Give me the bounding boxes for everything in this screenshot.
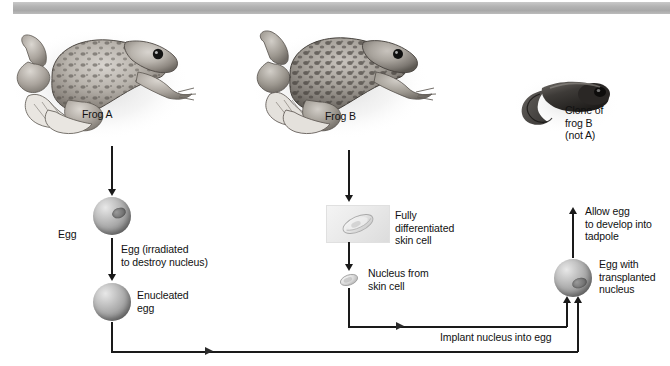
egg-label: Egg: [58, 228, 76, 241]
skin-cell-label: Fully differentiated skin cell: [395, 209, 454, 247]
implant-nucleus-up-line: [566, 300, 568, 327]
frog-a-label: Frog A: [82, 108, 112, 121]
arrow-frog-b-to-skin-cell-head: [345, 195, 353, 202]
implant-nucleus-direction-marker: [396, 322, 404, 330]
skin-cell-image-box: [326, 205, 390, 243]
transplanted-nucleus: [571, 276, 588, 290]
nucleus-down-line: [348, 288, 350, 328]
enucleated-egg-arrow-head: [574, 296, 582, 303]
enucleated-egg-direction-marker: [205, 347, 213, 355]
enucleated-egg-across-line: [111, 351, 578, 353]
enucleated-egg-sphere: [93, 283, 131, 321]
frog-b-illustration: [248, 20, 438, 145]
arrow-egg-to-enucleated-line: [111, 238, 113, 276]
arrow-skin-cell-to-nucleus-head: [345, 264, 353, 271]
frog-a-illustration: [8, 18, 198, 146]
implant-nucleus-across-line: [348, 326, 567, 328]
arrow-frog-a-to-egg-head: [108, 189, 116, 196]
arrow-skin-cell-to-nucleus-line: [348, 242, 350, 266]
egg-sphere: [93, 197, 131, 235]
arrow-develop-tadpole-head: [569, 207, 577, 214]
egg-nucleus: [111, 206, 128, 221]
figure-canvas: Frog A: [0, 0, 670, 366]
frog-b-label: Frog B: [325, 110, 356, 123]
tadpole-clone-label: Clone of frog B (not A): [565, 104, 603, 142]
implant-nucleus-label: Implant nucleus into egg: [440, 331, 551, 344]
arrow-frog-a-to-egg-line: [111, 146, 113, 190]
irradiated-egg-label: Egg (irradiated to destroy nucleus): [121, 243, 208, 268]
enucleated-egg-down-line: [111, 322, 113, 352]
arrow-develop-tadpole-line: [572, 213, 574, 258]
arrow-egg-to-enucleated-head: [108, 274, 116, 281]
top-banner-bar: [13, 2, 670, 14]
enucleated-egg-up-line: [577, 300, 579, 352]
enucleated-egg-label: Enucleated egg: [137, 289, 189, 314]
implant-nucleus-arrow-head: [563, 296, 571, 303]
arrow-frog-b-to-skin-cell-line: [348, 150, 350, 196]
transplanted-nucleus-egg-sphere: [554, 259, 592, 297]
transplanted-egg-label: Egg with transplanted nucleus: [599, 258, 656, 296]
develop-tadpole-label: Allow egg to develop into tadpole: [585, 205, 652, 243]
nucleus-from-skin-cell-label: Nucleus from skin cell: [368, 267, 429, 292]
